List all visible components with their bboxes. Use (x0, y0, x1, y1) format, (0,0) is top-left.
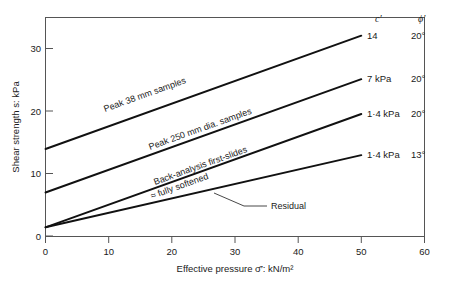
y-tick-label: 0 (36, 231, 41, 242)
legend-row-peak-250mm: 7 kPa 20° (367, 73, 426, 84)
y-axis-ticks (46, 49, 54, 237)
legend-row-residual: 1·4 kPa 13° (367, 149, 426, 160)
x-tick-label: 20 (167, 246, 178, 257)
y-tick-label: 30 (30, 43, 41, 54)
y-tick-label: 10 (30, 168, 41, 179)
figure-container: 0 10 20 30 0 10 20 30 40 50 60 Effective… (0, 0, 452, 283)
legend-c-value: 7 kPa (367, 73, 392, 84)
legend-phi-value: 13° (411, 149, 426, 160)
legend-phi-value: 20° (411, 108, 426, 119)
legend-phi-value: 20° (411, 73, 426, 84)
curve-label-peak-250mm: Peak 250 mm dia. samples (147, 106, 253, 152)
legend-phi-value: 20° (411, 30, 426, 41)
x-tick-label: 30 (230, 246, 241, 257)
legend-header-c-prime: c′ (375, 13, 382, 24)
legend-c-value: 14 (367, 30, 378, 41)
y-tick-labels: 0 10 20 30 (30, 43, 41, 242)
x-axis-ticks (46, 236, 425, 243)
plot-frame (46, 18, 425, 237)
x-tick-labels: 0 10 20 30 40 50 60 (43, 246, 430, 257)
legend-c-value: 1·4 kPa (367, 108, 400, 119)
x-tick-label: 40 (293, 246, 304, 257)
x-tick-label: 60 (419, 246, 430, 257)
x-tick-label: 0 (43, 246, 48, 257)
curve-label-residual: Residual (271, 201, 306, 211)
legend-c-value: 1·4 kPa (367, 149, 400, 160)
y-axis-title: Shear strength s: kPa (10, 81, 21, 173)
y-tick-label: 20 (30, 106, 41, 117)
legend-row-back-analysis: 1·4 kPa 20° (367, 108, 426, 119)
legend-header-phi-prime: ϕ′ (418, 13, 426, 24)
x-tick-label: 10 (103, 246, 114, 257)
x-tick-label: 50 (356, 246, 367, 257)
shear-strength-chart: 0 10 20 30 0 10 20 30 40 50 60 Effective… (0, 0, 452, 283)
curve-label-peak-38mm: Peak 38 mm samples (102, 75, 187, 114)
legend-row-peak-38mm: 14 20° (367, 30, 426, 41)
residual-leader-line (214, 193, 267, 206)
x-axis-title: Effective pressure σ̄′: kN/m² (177, 263, 294, 274)
